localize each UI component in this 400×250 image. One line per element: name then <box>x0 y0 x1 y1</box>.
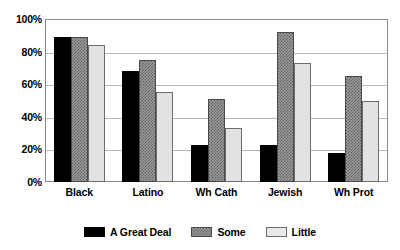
chart-legend: A Great Deal Some Little <box>0 222 400 242</box>
x-tick-label-wh-prot: Wh Prot <box>319 186 388 198</box>
bar-wh-cath-a-great-deal <box>191 145 208 182</box>
legend-label-some: Some <box>217 226 245 238</box>
bar-jewish-some <box>277 32 294 182</box>
legend-swatch-icon-some <box>191 227 212 237</box>
y-tick-label-80: 80% <box>0 47 42 57</box>
bar-wh-prot-some <box>345 76 362 182</box>
y-tick-label-0: 0% <box>0 177 42 187</box>
bar-black-some <box>71 37 88 182</box>
bar-group-black <box>54 19 105 182</box>
bar-group-latino <box>122 19 173 182</box>
bar-wh-prot-a-great-deal <box>328 153 345 182</box>
bar-latino-some <box>139 60 156 182</box>
bar-wh-cath-little <box>225 128 242 182</box>
y-tick-label-20: 20% <box>0 144 42 154</box>
bar-jewish-little <box>294 63 311 182</box>
bar-group-jewish <box>260 19 311 182</box>
x-tick-label-latino: Latino <box>114 186 183 198</box>
x-tick-label-jewish: Jewish <box>251 186 320 198</box>
y-axis: 100% 80% 60% 40% 20% 0% <box>0 0 42 250</box>
bars-layer <box>45 19 388 182</box>
bar-latino-little <box>156 92 173 182</box>
bar-black-a-great-deal <box>54 37 71 182</box>
grouped-bar-chart: 100% 80% 60% 40% 20% 0% Black Latino Wh … <box>0 0 400 250</box>
bar-black-little <box>88 45 105 182</box>
bar-wh-prot-little <box>362 101 379 183</box>
bar-group-wh-cath <box>191 19 242 182</box>
x-tick-label-wh-cath: Wh Cath <box>182 186 251 198</box>
bar-jewish-a-great-deal <box>260 145 277 182</box>
y-tick-label-100: 100% <box>0 14 42 24</box>
legend-label-a-great-deal: A Great Deal <box>110 226 171 238</box>
y-tick-label-60: 60% <box>0 79 42 89</box>
x-tick-label-black: Black <box>45 186 114 198</box>
bar-group-wh-prot <box>328 19 379 182</box>
legend-swatch-icon-a-great-deal <box>84 227 105 237</box>
y-tick-label-40: 40% <box>0 112 42 122</box>
bar-latino-a-great-deal <box>122 71 139 182</box>
x-axis: Black Latino Wh Cath Jewish Wh Prot <box>45 186 388 202</box>
bar-wh-cath-some <box>208 99 225 182</box>
legend-swatch-icon-little <box>266 227 287 237</box>
legend-label-little: Little <box>292 226 316 238</box>
legend-item-a-great-deal: A Great Deal <box>84 226 171 238</box>
legend-item-some: Some <box>191 226 245 238</box>
legend-item-little: Little <box>266 226 316 238</box>
